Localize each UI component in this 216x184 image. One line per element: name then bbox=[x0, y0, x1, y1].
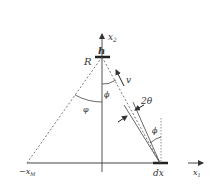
varphi-arc bbox=[75, 95, 102, 102]
diagram-canvas: x2 h R v ϕ φ 2θ ϕ dx x1 −xM bbox=[0, 0, 216, 184]
phi-bottom-label: ϕ bbox=[152, 126, 158, 135]
right-dashed-line bbox=[102, 57, 160, 163]
v-label: v bbox=[126, 75, 131, 85]
phi-top-arc bbox=[102, 80, 116, 84]
two-theta-label: 2θ bbox=[140, 96, 153, 106]
two-theta-arrow-left bbox=[118, 116, 127, 122]
phi-bottom-arc bbox=[150, 137, 161, 143]
dx-label: dx bbox=[153, 168, 164, 178]
phi-top-label: ϕ bbox=[104, 90, 110, 99]
x1-axis-label: x1 bbox=[193, 168, 201, 178]
varphi-label: φ bbox=[83, 105, 89, 114]
left-dashed-line bbox=[27, 57, 102, 163]
x2-axis-label: x2 bbox=[108, 32, 117, 43]
neg-xm-label: −xM bbox=[19, 167, 36, 177]
velocity-arrow bbox=[116, 70, 124, 86]
h-label: h bbox=[98, 45, 105, 56]
r-label: R bbox=[83, 56, 92, 67]
